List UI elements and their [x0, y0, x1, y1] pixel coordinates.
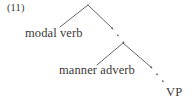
node-label-vp: VP [166, 86, 182, 99]
branch-lower-left [97, 43, 123, 65]
syntax-tree-figure: (11) modal verb manner adverb VP [0, 0, 195, 103]
branch-upper-right-continuation [112, 28, 124, 43]
branch-upper-right [88, 5, 113, 29]
branch-upper-left [60, 5, 88, 27]
branch-lower-right-continuation [151, 67, 166, 85]
node-label-modal-verb: modal verb [25, 27, 83, 40]
node-label-manner-adverb: manner adverb [59, 64, 135, 77]
